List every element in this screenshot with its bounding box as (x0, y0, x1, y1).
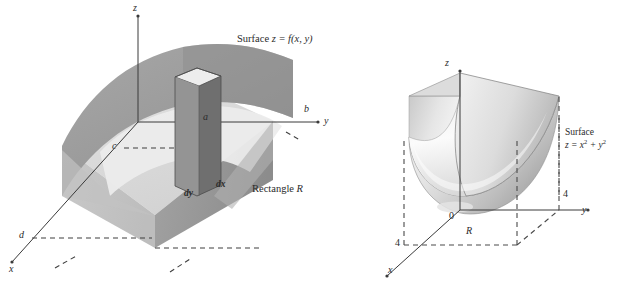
right-axis-y-label: y (582, 205, 586, 216)
eq-exp-y: 2 (603, 138, 606, 145)
right-origin-label: 0 (449, 211, 454, 222)
differential-column (175, 68, 221, 196)
right-tick-x-label: 4 (395, 238, 400, 249)
left-element-dy-label: dy (184, 189, 193, 199)
left-panel-graphics (10, 14, 319, 272)
left-bound-c-label: c (112, 141, 116, 152)
left-axis-y-label: y (324, 116, 328, 127)
left-bound-a-label: a (203, 112, 208, 123)
paraboloid-rim-left (409, 73, 460, 96)
left-element-dx-label: dx (216, 180, 226, 190)
paraboloid-rim-top (455, 73, 559, 196)
right-panel-graphics (385, 69, 589, 277)
right-axis-z-label: z (445, 58, 449, 69)
eq-mid: + y (587, 140, 602, 150)
right-surface-caption-line1: Surface (565, 128, 606, 138)
left-bound-d-label: d (19, 230, 24, 241)
eq-lhs: z = x (565, 140, 584, 150)
left-region-caption: Rectangle R (252, 183, 303, 194)
right-tick-y-label: 4 (563, 189, 568, 200)
left-surface-caption: Surface z = f(x, y) (237, 33, 313, 44)
paraboloid-vertex (437, 202, 473, 213)
right-surface-caption: Surface z = x2 + y2 (565, 128, 606, 151)
right-surface-caption-line2: z = x2 + y2 (565, 139, 606, 151)
left-axis-x-label: x (9, 264, 13, 275)
right-axis-x-label: x (388, 265, 392, 276)
right-region-label: R (466, 226, 472, 237)
left-axis-z-label: z (133, 3, 137, 14)
left-bound-b-label: b (304, 104, 309, 115)
